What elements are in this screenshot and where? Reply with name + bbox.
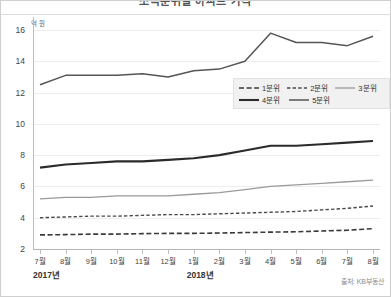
legend-row: 1분위2분위3분위 bbox=[239, 82, 384, 93]
chart-legend: 1분위2분위3분위4분위5분위 bbox=[233, 78, 390, 109]
legend-item-2분위[interactable]: 2분위 bbox=[287, 82, 328, 93]
series-line-2분위 bbox=[40, 206, 373, 218]
series-line-1분위 bbox=[40, 229, 373, 235]
legend-item-1분위[interactable]: 1분위 bbox=[239, 82, 280, 93]
legend-item-5분위[interactable]: 5분위 bbox=[289, 94, 330, 105]
legend-label: 2분위 bbox=[310, 82, 328, 93]
legend-line-swatch-icon bbox=[289, 97, 309, 103]
legend-item-3분위[interactable]: 3분위 bbox=[335, 82, 376, 93]
chart-page: 소득분위별 아파트 가격 억 원 161412108642 7월8월9월10월1… bbox=[0, 0, 391, 297]
legend-item-4분위[interactable]: 4분위 bbox=[239, 94, 280, 105]
legend-label: 5분위 bbox=[312, 94, 330, 105]
legend-label: 4분위 bbox=[262, 94, 280, 105]
series-line-3분위 bbox=[40, 180, 373, 199]
chart-plot-area: 억 원 161412108642 7월8월9월10월11월12월1월2월3월4월… bbox=[1, 14, 390, 296]
legend-line-swatch-icon bbox=[239, 85, 259, 91]
series-line-5분위 bbox=[40, 33, 373, 85]
legend-row: 4분위5분위 bbox=[239, 94, 384, 105]
source-note: 출처: KB부동산 bbox=[341, 276, 384, 286]
legend-label: 1분위 bbox=[262, 82, 280, 93]
legend-line-swatch-icon bbox=[239, 97, 259, 103]
chart-title-bar: 소득분위별 아파트 가격 bbox=[1, 1, 390, 15]
legend-label: 3분위 bbox=[358, 82, 376, 93]
page-title: 소득분위별 아파트 가격 bbox=[1, 1, 390, 8]
series-lines bbox=[1, 14, 390, 296]
series-line-4분위 bbox=[40, 141, 373, 168]
legend-line-swatch-icon bbox=[335, 85, 355, 91]
legend-line-swatch-icon bbox=[287, 85, 307, 91]
